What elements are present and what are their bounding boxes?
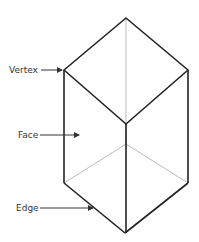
bottom-right-edge (125, 183, 188, 233)
pointer-arrows (40, 70, 93, 208)
edge-label: Edge (16, 203, 39, 213)
cube-diagram: Vertex Face Edge (0, 0, 199, 242)
face-label: Face (18, 130, 38, 140)
hidden-edge-left (64, 144, 126, 183)
vertex-label: Vertex (9, 65, 38, 75)
hidden-edge-right (126, 144, 188, 183)
